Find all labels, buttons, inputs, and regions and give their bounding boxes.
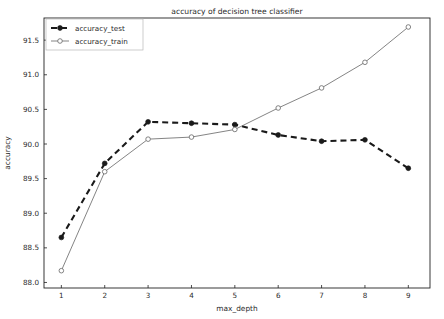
y-axis-ticks: 88.088.589.089.590.090.591.091.5 xyxy=(23,36,47,287)
data-point-accuracy_train xyxy=(189,135,194,140)
legend-label-accuracy_test: accuracy_test xyxy=(75,24,125,33)
x-tick-label: 4 xyxy=(189,291,194,300)
y-tick-label: 91.0 xyxy=(23,70,39,79)
data-point-accuracy_train xyxy=(59,268,64,273)
x-axis-ticks: 123456789 xyxy=(59,285,411,300)
y-tick-label: 88.0 xyxy=(23,278,39,287)
x-axis-title: max_depth xyxy=(216,304,258,313)
data-point-accuracy_test xyxy=(102,161,107,166)
data-point-accuracy_test xyxy=(406,166,411,171)
data-point-accuracy_train xyxy=(363,60,368,65)
data-point-accuracy_test xyxy=(232,122,237,127)
x-tick-label: 7 xyxy=(319,291,324,300)
y-axis-title: accuracy xyxy=(3,136,12,170)
plot-frame xyxy=(44,18,430,288)
chart-figure: 88.088.589.089.590.090.591.091.5 1234567… xyxy=(0,0,444,319)
x-tick-label: 2 xyxy=(102,291,107,300)
legend-marker-accuracy_test xyxy=(58,26,63,31)
y-tick-label: 91.5 xyxy=(23,36,39,45)
x-tick-label: 6 xyxy=(276,291,281,300)
chart-legend: accuracy_testaccuracy_train xyxy=(46,19,143,50)
x-tick-label: 5 xyxy=(233,291,238,300)
y-tick-label: 89.0 xyxy=(23,209,39,218)
data-point-accuracy_test xyxy=(59,235,64,240)
legend-label-accuracy_train: accuracy_train xyxy=(75,37,128,46)
y-tick-label: 89.5 xyxy=(23,174,39,183)
data-point-accuracy_test xyxy=(363,137,368,142)
accuracy-line-chart: 88.088.589.089.590.090.591.091.5 1234567… xyxy=(0,0,444,319)
data-point-accuracy_test xyxy=(319,139,324,144)
chart-title: accuracy of decision tree classifier xyxy=(171,7,303,16)
legend-marker-accuracy_train xyxy=(58,39,63,44)
x-tick-label: 9 xyxy=(406,291,411,300)
y-tick-label: 90.5 xyxy=(23,105,39,114)
data-point-accuracy_test xyxy=(276,133,281,138)
x-tick-label: 8 xyxy=(363,291,368,300)
data-point-accuracy_train xyxy=(233,127,238,132)
data-point-accuracy_train xyxy=(102,169,107,174)
data-point-accuracy_train xyxy=(319,86,324,91)
y-tick-label: 90.0 xyxy=(23,140,39,149)
data-point-accuracy_test xyxy=(189,121,194,126)
data-point-accuracy_test xyxy=(146,119,151,124)
series-line-accuracy_train xyxy=(61,27,408,271)
series-line-accuracy_test xyxy=(61,122,408,238)
data-point-accuracy_train xyxy=(146,137,151,142)
axes-frame xyxy=(44,18,430,288)
y-tick-label: 88.5 xyxy=(23,243,39,252)
x-tick-label: 3 xyxy=(146,291,151,300)
data-point-accuracy_train xyxy=(406,25,411,30)
x-tick-label: 1 xyxy=(59,291,64,300)
data-point-accuracy_train xyxy=(276,106,281,111)
series-layer xyxy=(59,25,411,273)
